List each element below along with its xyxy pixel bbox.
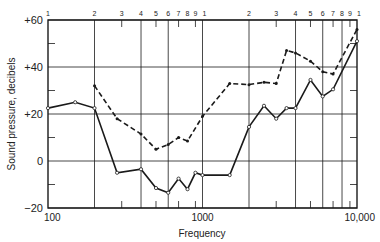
top-axis-cycle-label: 3 [120, 10, 124, 17]
data-point-marker [115, 171, 118, 174]
data-point-marker [321, 70, 324, 73]
top-axis-cycle-label: 8 [186, 10, 190, 17]
data-point-marker [262, 81, 265, 84]
y-tick-label: +60 [24, 14, 43, 26]
data-point-marker [262, 104, 265, 107]
data-point-marker [139, 168, 142, 171]
data-point-marker [294, 107, 297, 110]
data-point-marker [154, 148, 157, 151]
top-axis-cycle-label: 7 [177, 10, 181, 17]
top-axis-cycle-label: 5 [309, 10, 313, 17]
data-point-marker [248, 83, 251, 86]
y-tick-label: +40 [24, 61, 43, 73]
top-axis-cycle-label: 9 [348, 10, 352, 17]
data-point-marker [93, 84, 96, 87]
top-axis-cycle-label: 9 [193, 10, 197, 17]
data-point-marker [177, 136, 180, 139]
data-point-marker [331, 88, 334, 91]
top-axis-cycle-label: 2 [93, 10, 97, 17]
data-point-marker [355, 40, 358, 43]
y-tick-label: +20 [24, 108, 43, 120]
data-point-marker [321, 95, 324, 98]
data-point-marker [285, 107, 288, 110]
y-axis-title: Sound pressure, decibels [6, 58, 17, 171]
top-axis-cycle-label: 4 [294, 10, 298, 17]
y-tick-label: −20 [24, 202, 43, 214]
top-axis-cycle-label: 4 [139, 10, 143, 17]
data-point-marker [186, 140, 189, 143]
data-point-marker [167, 143, 170, 146]
data-point-marker [74, 101, 77, 104]
data-point-marker [247, 125, 250, 128]
top-axis-cycle-label: 7 [331, 10, 335, 17]
data-point-marker [93, 107, 96, 110]
top-axis-cycle-label: 6 [166, 10, 170, 17]
data-point-marker [332, 73, 335, 76]
y-tick-label: 0 [37, 155, 43, 167]
data-point-marker [228, 82, 231, 85]
data-point-marker [167, 191, 170, 194]
top-axis-cycle-label: 6 [321, 10, 325, 17]
x-axis-title: Frequency [178, 228, 225, 239]
data-point-marker [177, 177, 180, 180]
data-point-marker [228, 174, 231, 177]
x-tick-label: 10,000 [344, 212, 375, 223]
top-axis-cycle-label: 3 [274, 10, 278, 17]
top-axis-cycle-label: 1 [203, 10, 207, 17]
top-axis-cycle-label: 2 [247, 10, 251, 17]
data-point-marker [154, 186, 157, 189]
data-point-marker [309, 78, 312, 81]
x-tick-label: 100 [44, 212, 61, 223]
chart-grid [48, 20, 357, 208]
data-point-marker [285, 49, 288, 52]
data-point-marker [116, 117, 119, 120]
data-point-marker [275, 117, 278, 120]
data-point-marker [201, 115, 204, 118]
data-point-marker [194, 171, 197, 174]
data-point-marker [275, 82, 278, 85]
data-point-marker [186, 188, 189, 191]
data-point-marker [140, 132, 143, 135]
data-point-marker [294, 51, 297, 54]
top-axis-cycle-label: 1 [46, 10, 50, 17]
top-axis-cycle-label: 8 [340, 10, 344, 17]
top-axis-cycle-label: 5 [154, 10, 158, 17]
sound-pressure-chart: +60+40+200−20100100010,00012345678912345… [0, 0, 380, 242]
x-tick-label: 1000 [191, 212, 214, 223]
data-point-marker [201, 174, 204, 177]
data-point-marker [46, 107, 49, 110]
top-axis-cycle-label: 1 [357, 10, 361, 17]
data-point-marker [356, 28, 359, 31]
data-point-marker [309, 60, 312, 63]
